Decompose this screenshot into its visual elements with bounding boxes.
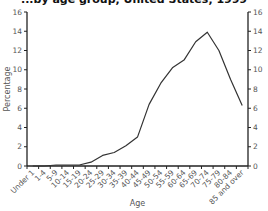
x-tick-label: Under 1 [9,168,37,196]
y-tick-label-right: 14 [253,27,263,36]
y-tick-label-left: 6 [17,104,22,113]
y-tick-label-left: 12 [12,46,22,55]
y-tick-label-left: 16 [12,8,22,17]
y-tick-label-right: 4 [253,123,258,132]
y-tick-label-left: 8 [17,85,22,94]
x-axis-label: Age [130,199,146,208]
y-tick-label-right: 16 [253,8,263,17]
y-tick-label-right: 8 [253,85,258,94]
y-tick-label-left: 4 [17,123,22,132]
y-tick-label-right: 10 [253,65,263,74]
y-tick-label-right: 12 [253,46,263,55]
y-tick-label-right: 0 [253,162,258,171]
y-tick-label-right: 6 [253,104,258,113]
y-axis-label: Percentage [3,66,12,111]
data-line [33,32,242,166]
y-tick-label-left: 2 [17,142,22,151]
y-tick-label-right: 2 [253,142,258,151]
y-tick-label-left: 0 [17,162,22,171]
line-chart: 00224466881010121214141616Under 11-45-91… [0,0,268,211]
y-tick-label-left: 14 [12,27,22,36]
y-tick-label-left: 10 [12,65,22,74]
